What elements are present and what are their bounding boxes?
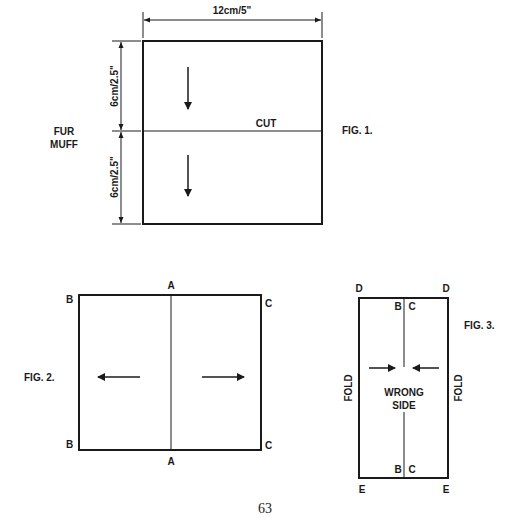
fig1-pattern-piece — [143, 41, 322, 224]
label-d-right: D — [442, 283, 449, 294]
label-a-top: A — [167, 280, 174, 291]
label-c-inner-bottom: C — [408, 464, 415, 475]
fig1: 12cm/5" CUT 6cm/2.5" 6cm/2.5" FUR MUFF F… — [50, 5, 373, 224]
height-dimension-label-top: 6cm/2.5" — [109, 65, 120, 107]
fig2-caption: FIG. 2. — [24, 372, 55, 383]
pattern-diagram-page: 12cm/5" CUT 6cm/2.5" 6cm/2.5" FUR MUFF F… — [0, 0, 531, 530]
label-b-inner-top: B — [394, 301, 401, 312]
label-e-left: E — [359, 484, 366, 495]
width-dimension-label: 12cm/5" — [213, 5, 252, 16]
label-e-right: E — [443, 484, 450, 495]
cut-label: CUT — [256, 118, 277, 129]
label-c-top: C — [265, 298, 272, 309]
label-d-left: D — [355, 283, 362, 294]
label-c-inner-top: C — [408, 301, 415, 312]
fig1-caption: FIG. 1. — [342, 125, 373, 136]
height-dimension-label-bottom: 6cm/2.5" — [109, 156, 120, 198]
fold-label-left: FOLD — [343, 374, 354, 401]
label-a-bottom: A — [167, 456, 174, 467]
fig2: A A B B C C FIG. 2. — [24, 280, 272, 467]
fold-label-right: FOLD — [453, 374, 464, 401]
page-number: 63 — [258, 501, 272, 516]
label-c-bottom: C — [265, 440, 272, 451]
fig3-caption: FIG. 3. — [464, 320, 495, 331]
fur-muff-title-line1: FUR — [54, 126, 75, 137]
wrong-side-label-line1: WRONG — [384, 387, 424, 398]
label-b-top: B — [66, 294, 73, 305]
label-b-inner-bottom: B — [394, 464, 401, 475]
fig2-pattern-piece — [79, 295, 261, 450]
wrong-side-label-line2: SIDE — [392, 400, 416, 411]
fig3: D D E E B C B C WRONG SIDE FOLD FOLD FIG… — [343, 283, 495, 495]
fur-muff-title-line2: MUFF — [50, 139, 78, 150]
label-b-bottom: B — [66, 439, 73, 450]
